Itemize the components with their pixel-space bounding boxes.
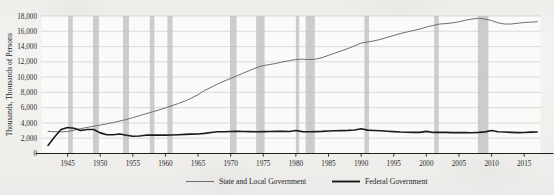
y-axis-title: Thousands, Thousands of Persons bbox=[5, 33, 14, 136]
chart-stage: 02,0004,0006,0008,00010,00012,00014,0001… bbox=[0, 0, 554, 195]
x-axis-tick-label: 1955 bbox=[126, 160, 141, 168]
x-axis-tick-label: 1945 bbox=[60, 160, 75, 168]
y-axis-tick-label: 16,000 bbox=[17, 28, 37, 36]
recession-band bbox=[150, 16, 155, 154]
chart-legend: State and Local GovernmentFederal Govern… bbox=[186, 177, 429, 186]
x-axis-tick-label: 2015 bbox=[517, 160, 532, 168]
y-axis-tick-label: 8,000 bbox=[21, 89, 38, 97]
x-axis-tick-label: 2000 bbox=[419, 160, 434, 168]
x-axis-tick-label: 1975 bbox=[256, 160, 271, 168]
legend-label-federal-government: Federal Government bbox=[365, 177, 429, 186]
x-axis-tick-label: 1980 bbox=[289, 160, 304, 168]
y-axis-tick-label: 18,000 bbox=[17, 13, 37, 21]
y-axis-tick-label: 6,000 bbox=[21, 104, 38, 112]
x-axis-tick-label: 1950 bbox=[93, 160, 108, 168]
recession-band bbox=[123, 16, 129, 154]
recession-band bbox=[167, 16, 172, 154]
x-axis-tick-label: 1970 bbox=[223, 160, 238, 168]
recession-band bbox=[68, 16, 73, 154]
recession-band bbox=[296, 16, 299, 154]
chart-page: 02,0004,0006,0008,00010,00012,00014,0001… bbox=[0, 0, 554, 195]
y-axis-tick-label: 4,000 bbox=[21, 120, 38, 128]
y-axis-tick-label: 10,000 bbox=[17, 74, 37, 82]
y-axis-tick-label: 0 bbox=[33, 150, 37, 158]
y-axis-tick-label: 12,000 bbox=[17, 58, 37, 66]
government-employment-line-chart: 02,0004,0006,0008,00010,00012,00014,0001… bbox=[0, 0, 554, 195]
y-axis-tick-label: 2,000 bbox=[21, 135, 38, 143]
x-axis-tick-label: 1960 bbox=[158, 160, 173, 168]
x-axis-tick-label: 1990 bbox=[354, 160, 369, 168]
x-axis-tick-label: 2010 bbox=[484, 160, 499, 168]
x-axis-tick-label: 1985 bbox=[321, 160, 336, 168]
x-axis-tick-label: 1965 bbox=[191, 160, 206, 168]
x-axis-ticks: 1945195019551960196519701975198019851990… bbox=[60, 154, 531, 168]
y-axis-tick-labels: 02,0004,0006,0008,00010,00012,00014,0001… bbox=[17, 13, 37, 159]
legend-label-state-and-local-government: State and Local Government bbox=[219, 177, 307, 186]
y-axis-tick-label: 14,000 bbox=[17, 43, 37, 51]
recession-band bbox=[306, 16, 315, 154]
recession-band bbox=[364, 16, 369, 154]
recession-band bbox=[256, 16, 264, 154]
recession-band bbox=[93, 16, 99, 154]
x-axis-tick-label: 2005 bbox=[452, 160, 467, 168]
x-axis-tick-label: 1995 bbox=[387, 160, 402, 168]
recession-band bbox=[230, 16, 237, 154]
